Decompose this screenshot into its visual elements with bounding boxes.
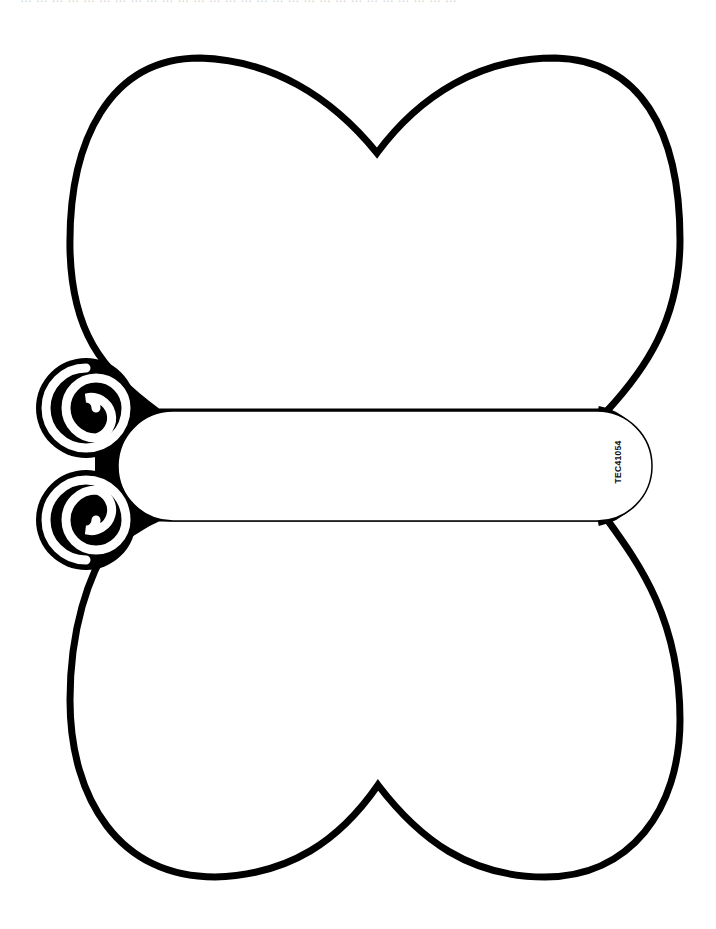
body <box>118 411 652 521</box>
product-code-label: TEC41054 <box>613 440 623 483</box>
upper-wing <box>70 58 680 412</box>
antenna-top-icon <box>36 358 136 458</box>
lower-wing <box>70 518 680 877</box>
butterfly-template <box>0 0 716 929</box>
